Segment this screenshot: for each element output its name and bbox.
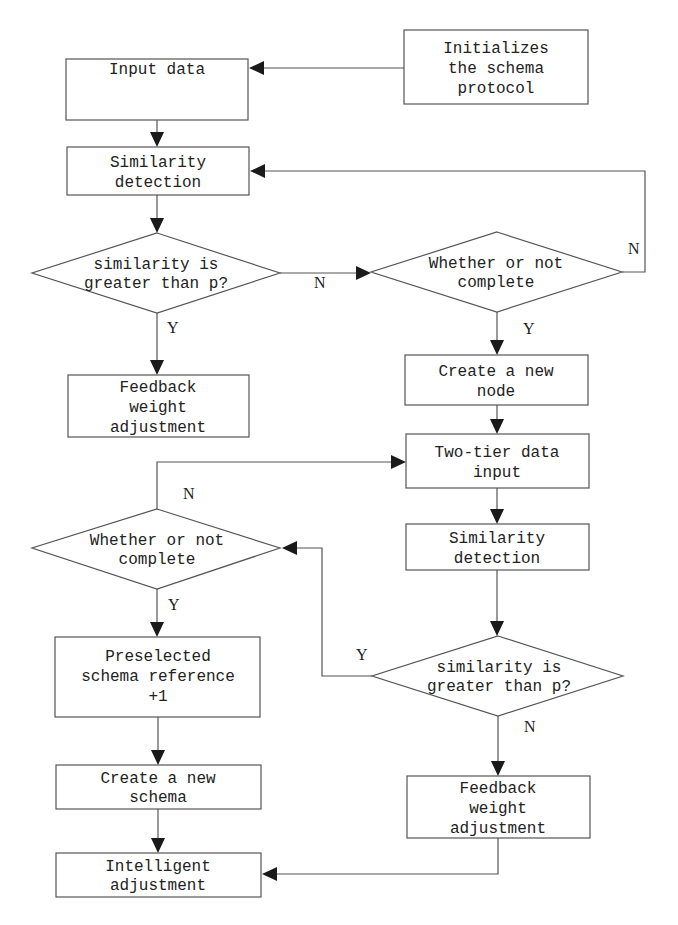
- edge-newnode-to-twotier: [490, 405, 504, 434]
- svg-text:Whether or not: Whether or not: [90, 532, 224, 550]
- svg-text:Similarity: Similarity: [449, 530, 545, 548]
- svg-text:greater than p?: greater than p?: [427, 678, 571, 696]
- svg-text:weight: weight: [469, 800, 527, 818]
- svg-text:node: node: [477, 383, 515, 401]
- svg-text:schema: schema: [129, 789, 187, 807]
- svg-text:weight: weight: [129, 399, 187, 417]
- svg-text:detection: detection: [115, 174, 201, 192]
- edge-input-to-sim1: [150, 120, 164, 147]
- svg-text:Feedback: Feedback: [120, 379, 197, 397]
- svg-text:adjustment: adjustment: [110, 877, 206, 895]
- node-intelligent-adjustment: Intelligent adjustment: [56, 853, 261, 897]
- node-feedback-weight-adjustment-1: Feedback weight adjustment: [68, 375, 249, 437]
- label-dec1-yes: Y: [167, 319, 179, 336]
- edge-dec1-to-fb1: [150, 313, 164, 375]
- svg-text:complete: complete: [119, 551, 196, 569]
- edge-sim2-to-dec3: [490, 570, 504, 636]
- edge-dec2-to-newnode: [490, 312, 504, 355]
- svg-text:complete: complete: [458, 274, 535, 292]
- label-dec4-no: N: [183, 485, 195, 502]
- svg-text:Whether or not: Whether or not: [429, 255, 563, 273]
- svg-text:similarity is: similarity is: [437, 659, 562, 677]
- svg-text:Preselected: Preselected: [105, 648, 211, 666]
- node-decision-similarity-1: similarity is greater than p?: [32, 233, 280, 313]
- svg-text:input: input: [473, 464, 521, 482]
- node-decision-complete-1: Whether or not complete: [371, 232, 622, 312]
- label-dec3-no: N: [524, 718, 536, 735]
- flowchart-canvas: N Y N Y Y N N Y Initializes the schema p…: [0, 0, 678, 925]
- label-dec2-yes: Y: [523, 320, 535, 337]
- svg-text:protocol: protocol: [458, 80, 535, 98]
- edge-fb2-to-intel: [262, 838, 498, 881]
- label-dec1-no: N: [314, 274, 326, 291]
- edge-dec3-to-fb2: [491, 716, 505, 776]
- edge-init-to-input: [249, 61, 404, 75]
- svg-text:Input data: Input data: [109, 61, 205, 79]
- svg-text:Feedback: Feedback: [460, 780, 537, 798]
- node-similarity-detection-2: Similarity detection: [406, 524, 589, 570]
- svg-text:Initializes: Initializes: [443, 40, 549, 58]
- node-initializes-schema-protocol: Initializes the schema protocol: [404, 30, 588, 104]
- svg-text:Intelligent: Intelligent: [105, 858, 211, 876]
- svg-text:the schema: the schema: [448, 60, 544, 78]
- svg-text:+1: +1: [148, 688, 167, 706]
- node-decision-complete-2: Whether or not complete: [32, 509, 280, 589]
- edge-sim1-to-dec1: [150, 195, 164, 233]
- node-preselected-schema-reference: Preselected schema reference +1: [55, 637, 260, 717]
- svg-text:adjustment: adjustment: [110, 419, 206, 437]
- edge-dec4-to-presel: [150, 589, 164, 637]
- node-feedback-weight-adjustment-2: Feedback weight adjustment: [407, 776, 590, 838]
- node-input-data: Input data: [66, 59, 248, 120]
- node-decision-similarity-2: similarity is greater than p?: [372, 636, 623, 716]
- svg-text:detection: detection: [454, 550, 540, 568]
- edge-presel-to-newschema: [151, 717, 165, 765]
- svg-text:Create a new: Create a new: [438, 363, 554, 381]
- node-create-new-schema: Create a new schema: [56, 765, 261, 809]
- svg-text:Similarity: Similarity: [110, 154, 206, 172]
- label-dec4-yes: Y: [168, 596, 180, 613]
- svg-text:similarity is: similarity is: [94, 256, 219, 274]
- node-create-new-node: Create a new node: [405, 355, 588, 405]
- label-dec2-no: N: [628, 240, 640, 257]
- edge-twotier-to-sim2: [490, 488, 504, 524]
- svg-text:schema reference: schema reference: [81, 668, 235, 686]
- svg-text:Two-tier data: Two-tier data: [435, 444, 560, 462]
- node-similarity-detection-1: Similarity detection: [67, 147, 249, 195]
- edge-newschema-to-intel: [151, 809, 165, 853]
- svg-text:Create a new: Create a new: [100, 770, 216, 788]
- node-two-tier-data-input: Two-tier data input: [406, 434, 589, 488]
- svg-text:adjustment: adjustment: [450, 820, 546, 838]
- label-dec3-yes: Y: [356, 646, 368, 663]
- svg-text:greater than p?: greater than p?: [84, 275, 228, 293]
